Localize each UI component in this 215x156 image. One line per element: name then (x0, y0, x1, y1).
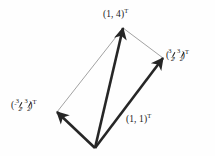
connector-lines (57, 28, 163, 112)
fraction-three-halves-first: 32 (169, 49, 172, 62)
vector-label-1-4-text: (1, 4) (103, 9, 124, 19)
vector-label-neg3over2-3over2: (-32, 32)T (11, 99, 36, 112)
vector-label-1-4: (1, 4)T (103, 8, 128, 20)
fraction-denominator: 2 (171, 56, 174, 63)
fraction-three-halves-second: 32 (26, 99, 29, 112)
vector-canvas (0, 0, 215, 156)
transpose-superscript: T (147, 112, 151, 119)
vector-label-3over2-3over2: (32, 32)T (166, 49, 189, 62)
vector-diagram-figure: (1, 4)T (32, 32)T (-32, 32)T (1, 1)T (0, 0, 215, 156)
fraction-denominator: 2 (18, 106, 21, 113)
transpose-superscript: T (124, 7, 128, 14)
fraction-three-halves-first: 32 (17, 99, 20, 112)
vector-label-1-1-text: (1, 1) (126, 114, 147, 124)
transpose-superscript: T (32, 98, 36, 105)
vector-neg3over2-3over2-arrow (57, 112, 95, 148)
fraction-numerator: 3 (177, 48, 180, 55)
fraction-numerator: 3 (24, 98, 27, 105)
fraction-denominator: 2 (27, 106, 30, 113)
connector-top-to-right (123, 28, 163, 58)
fraction-numerator: 3 (168, 48, 171, 55)
fraction-three-halves-second: 32 (178, 49, 181, 62)
fraction-numerator: 3 (16, 98, 19, 105)
transpose-superscript: T (185, 48, 189, 55)
fraction-denominator: 2 (179, 56, 182, 63)
vector-label-1-1: (1, 1)T (126, 113, 151, 125)
